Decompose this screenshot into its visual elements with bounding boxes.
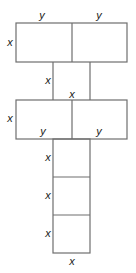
label-second-rect-height-x: x bbox=[6, 112, 13, 124]
label-lower-box1-x: x bbox=[44, 151, 51, 163]
lower-column-outline bbox=[53, 139, 90, 253]
label-column-upper-x: x bbox=[44, 74, 51, 86]
label-column-upper-width-x: x bbox=[68, 88, 75, 100]
label-bottom-width-x: x bbox=[68, 255, 75, 267]
top-rectangle bbox=[16, 23, 127, 62]
label-top-right-y: y bbox=[95, 9, 103, 21]
second-rectangle bbox=[16, 100, 127, 139]
label-top-left-y: y bbox=[38, 9, 46, 21]
prism-net-diagram: y y x x x x y y x x x x bbox=[0, 0, 136, 273]
lower-column bbox=[53, 139, 90, 253]
label-top-rect-height-x: x bbox=[6, 36, 13, 48]
label-second-left-y: y bbox=[39, 125, 47, 137]
label-lower-box3-x: x bbox=[44, 227, 51, 239]
label-second-right-y: y bbox=[95, 125, 103, 137]
label-lower-box2-x: x bbox=[44, 189, 51, 201]
